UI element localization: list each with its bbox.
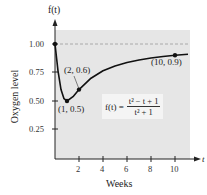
x-tick-label: 6 [124,165,128,174]
x-axis-title: Weeks [106,179,132,189]
y-axis-arrow-icon [53,19,58,26]
formula-denominator: t² + 1 [133,107,155,117]
point-1-0.5 [65,99,69,103]
y-tick-label: 0.50 [29,97,44,106]
y-axis-title: Oxygen level [9,67,20,127]
y-tick-label: 0.75 [29,68,44,77]
formula-label: f(t) = t² − t + 1 t² + 1 [102,94,163,119]
annotation-2-0.6: (2, 0.6) [64,66,90,75]
x-tick-label: 10 [170,165,179,174]
x-axis-arrow-icon [194,157,201,162]
formula-lhs: f(t) = [105,102,124,112]
x-tick-label: 4 [100,165,104,174]
y-axis-symbol: f(t) [48,6,60,16]
x-tick-label: 2 [76,165,80,174]
point-2-0.6 [77,87,81,91]
annotation-1-0.5: (1, 0.5) [58,105,84,114]
formula-numerator: t² − t + 1 [127,96,161,107]
formula-fraction: t² − t + 1 t² + 1 [127,96,161,117]
point-0-1 [53,42,57,46]
annotation-10-0.9: (10, 0.9) [151,58,182,67]
x-tick-label: 8 [148,165,152,174]
y-tick-label: 0.25 [29,125,44,134]
x-axis-symbol: t [202,155,205,164]
y-tick-label: 1.00 [29,40,44,49]
